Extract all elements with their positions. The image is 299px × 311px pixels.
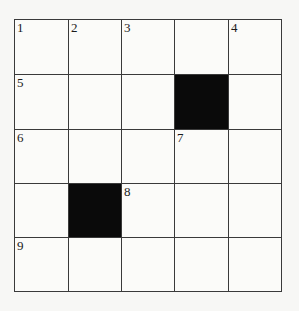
- crossword-cell[interactable]: 2: [69, 20, 122, 75]
- crossword-cell[interactable]: [175, 184, 229, 238]
- crossword-cell[interactable]: 7: [175, 130, 229, 184]
- crossword-cell[interactable]: 5: [15, 75, 69, 130]
- crossword-cell[interactable]: 4: [229, 20, 282, 75]
- crossword-cell[interactable]: [229, 184, 282, 238]
- crossword-cell[interactable]: [69, 130, 122, 184]
- crossword-cell[interactable]: [229, 130, 282, 184]
- crossword-cell[interactable]: [15, 184, 69, 238]
- crossword-cell[interactable]: 9: [15, 238, 69, 292]
- clue-number: 4: [231, 21, 238, 34]
- clue-number: 7: [177, 131, 184, 144]
- crossword-cell[interactable]: [229, 75, 282, 130]
- crossword-cell[interactable]: [69, 238, 122, 292]
- crossword-cell[interactable]: [122, 75, 175, 130]
- crossword-cell[interactable]: 8: [122, 184, 175, 238]
- clue-number: 8: [124, 185, 131, 198]
- clue-number: 9: [17, 239, 24, 252]
- clue-number: 3: [124, 21, 131, 34]
- crossword-cell[interactable]: [122, 238, 175, 292]
- crossword-cell[interactable]: [175, 20, 229, 75]
- crossword-cell[interactable]: 6: [15, 130, 69, 184]
- crossword-grid: 123456789: [14, 19, 282, 292]
- black-square: [175, 75, 229, 130]
- crossword-cell[interactable]: [175, 238, 229, 292]
- clue-number: 2: [71, 21, 78, 34]
- clue-number: 5: [17, 76, 24, 89]
- crossword-cell[interactable]: [69, 75, 122, 130]
- crossword-cell[interactable]: 1: [15, 20, 69, 75]
- clue-number: 6: [17, 131, 24, 144]
- crossword-cell[interactable]: [229, 238, 282, 292]
- clue-number: 1: [17, 21, 24, 34]
- crossword-cell[interactable]: [122, 130, 175, 184]
- crossword-cell[interactable]: 3: [122, 20, 175, 75]
- black-square: [69, 184, 122, 238]
